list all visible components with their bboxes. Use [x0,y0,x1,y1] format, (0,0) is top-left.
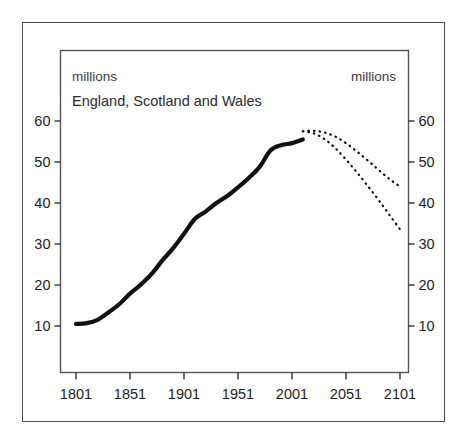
y-tick-label-right-30: 30 [419,236,435,252]
y-tick-label-right-40: 40 [419,195,435,211]
x-tick-label-1851: 1851 [114,386,146,402]
x-axis-ticks: 1801185119011951200120512101 [60,373,416,402]
chart-plot-area: 605040302010 605040302010 18011851190119… [0,0,469,445]
chart-svg: 605040302010 605040302010 18011851190119… [0,0,469,445]
x-tick-label-2051: 2051 [330,386,362,402]
y-tick-label-left-40: 40 [34,195,50,211]
x-tick-label-1901: 1901 [168,386,200,402]
x-tick-label-2101: 2101 [384,386,416,402]
y-axis-left-ticks: 605040302010 [34,113,60,334]
y-tick-label-left-60: 60 [34,113,50,129]
units-label-right: millions [351,69,396,84]
y-tick-label-left-20: 20 [34,277,50,293]
x-tick-label-1801: 1801 [60,386,92,402]
y-tick-label-right-10: 10 [419,318,435,334]
y-tick-label-left-50: 50 [34,154,50,170]
y-tick-label-left-10: 10 [34,318,50,334]
x-tick-label-2001: 2001 [276,386,308,402]
y-tick-label-right-60: 60 [419,113,435,129]
x-tick-label-1951: 1951 [222,386,254,402]
y-tick-label-left-30: 30 [34,236,50,252]
series-region-note: England, Scotland and Wales [72,93,262,109]
units-label-left: millions [72,69,117,84]
y-tick-label-right-50: 50 [419,154,435,170]
y-axis-right-ticks: 605040302010 [409,113,435,334]
y-tick-label-right-20: 20 [419,277,435,293]
population-chart-figure: 605040302010 605040302010 18011851190119… [0,0,469,445]
